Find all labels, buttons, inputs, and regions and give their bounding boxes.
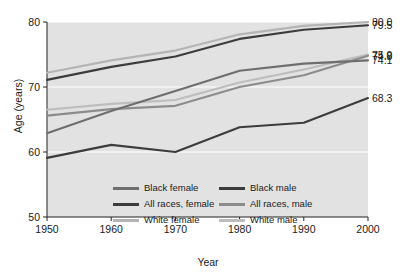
series-lines xyxy=(47,22,368,158)
legend-label: Black female xyxy=(144,183,198,193)
end-label-all-races-female: 79.5 xyxy=(372,20,392,30)
legend-item-all-races-female[interactable]: All races, female xyxy=(113,199,219,209)
legend-item-all-races-male[interactable]: All races, male xyxy=(219,199,335,209)
legend-item-white-male[interactable]: White male xyxy=(219,215,335,225)
y-tick-label-50: 50 xyxy=(14,212,40,222)
legend-swatch-icon xyxy=(113,187,139,190)
chart-legend: Black femaleBlack maleAll races, femaleA… xyxy=(113,180,335,228)
y-tick-label-80: 80 xyxy=(14,17,40,27)
legend-label: All races, male xyxy=(250,199,312,209)
y-axis-title: Age (years) xyxy=(12,61,24,151)
series-line-black-male xyxy=(47,98,368,158)
legend-label: White male xyxy=(250,215,298,225)
legend-swatch-icon xyxy=(219,187,245,190)
x-axis-title: Year xyxy=(163,256,253,268)
legend-swatch-icon xyxy=(113,219,139,222)
line-chart: 50607080 195019601970198019902000 80.079… xyxy=(0,0,400,274)
x-tick-label-1950: 1950 xyxy=(25,224,69,234)
series-line-all-races-female xyxy=(47,25,368,80)
legend-label: Black male xyxy=(250,183,296,193)
x-tick-label-2000: 2000 xyxy=(346,224,390,234)
legend-item-black-male[interactable]: Black male xyxy=(219,183,335,193)
legend-swatch-icon xyxy=(113,203,139,206)
end-label-black-female: 74.1 xyxy=(372,55,392,65)
legend-label: White female xyxy=(144,215,199,225)
legend-item-white-female[interactable]: White female xyxy=(113,215,219,225)
end-label-black-male: 68.3 xyxy=(372,93,392,103)
legend-swatch-icon xyxy=(219,203,245,206)
legend-label: All races, female xyxy=(144,199,214,209)
legend-swatch-icon xyxy=(219,219,245,222)
legend-item-black-female[interactable]: Black female xyxy=(113,183,219,193)
